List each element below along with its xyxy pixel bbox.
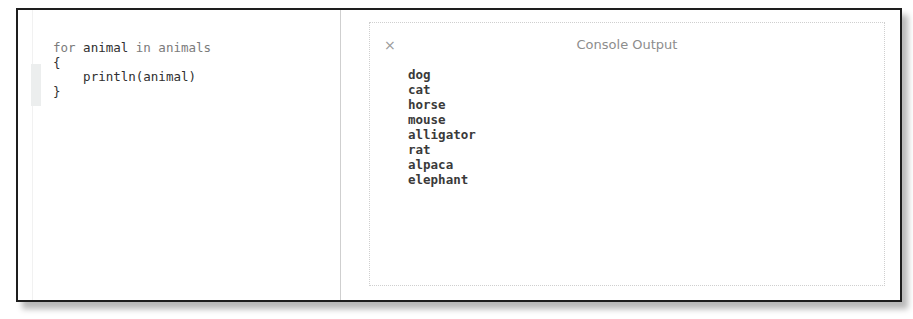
loop-variable: animal	[76, 40, 129, 55]
code-editor[interactable]: for animal in animals { println(animal) …	[18, 10, 340, 300]
console-output-panel: × Console Output dog cat horse mouse all…	[369, 22, 885, 286]
iterable-name: animals	[151, 40, 211, 55]
console-line: elephant	[408, 172, 476, 187]
code-block[interactable]: for animal in animals { println(animal) …	[53, 41, 211, 99]
keyword-for: for	[53, 40, 76, 55]
gutter-highlight	[31, 64, 41, 106]
code-line-1: for animal in animals	[53, 40, 211, 55]
console-line: mouse	[408, 112, 476, 127]
keyword-in: in	[128, 40, 151, 55]
console-line: cat	[408, 82, 476, 97]
console-line: horse	[408, 97, 476, 112]
code-line-4: }	[53, 84, 61, 99]
console-line: alpaca	[408, 157, 476, 172]
console-line: rat	[408, 142, 476, 157]
console-line: alligator	[408, 127, 476, 142]
code-line-3: println(animal)	[53, 69, 196, 84]
console-lines: dog cat horse mouse alligator rat alpaca…	[408, 67, 476, 187]
console-title: Console Output	[370, 37, 884, 53]
gutter-divider	[32, 10, 33, 300]
console-line: dog	[408, 67, 476, 82]
code-line-2: {	[53, 55, 61, 70]
output-pane: × Console Output dog cat horse mouse all…	[341, 10, 900, 300]
app-window: for animal in animals { println(animal) …	[16, 8, 902, 302]
